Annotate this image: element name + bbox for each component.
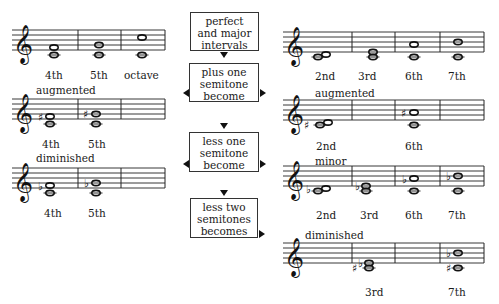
section-title-diminished: diminished (36, 153, 95, 164)
section-title-augmented: augmented (315, 88, 375, 99)
interval-label: 3rd (365, 287, 383, 298)
interval-label: 6th (405, 71, 423, 82)
treble-clef-icon: 𝄞 (284, 25, 304, 67)
interval-label: 4th (42, 139, 60, 150)
flow-box-perfect-major: perfect and major intervals (190, 12, 259, 51)
box-line: semitones (191, 213, 257, 225)
interval-label: 2nd (315, 71, 335, 82)
arrow-right-icon (260, 89, 266, 97)
box-line: semitone (190, 147, 258, 159)
box-line: become (190, 90, 258, 102)
flow-box-plus-one: plus one semitone become (189, 63, 259, 102)
interval-label: 2nd (316, 141, 336, 152)
treble-clef-icon: 𝄞 (13, 23, 33, 65)
box-line: becomes (191, 225, 257, 237)
treble-clef-icon: 𝄞 (13, 161, 33, 203)
arrow-left-icon (183, 160, 189, 168)
interval-label: 7th (448, 287, 466, 298)
whole-note (410, 176, 418, 181)
sharp-icon: ♯ (446, 262, 451, 275)
whole-note (410, 110, 418, 115)
arrow-right-icon (260, 160, 266, 168)
sharp-icon: ♯ (401, 107, 406, 120)
sharp-icon: ♯ (38, 111, 43, 124)
interval-label: 7th (448, 71, 466, 82)
box-line: semitone (190, 78, 258, 90)
interval-label: 4th (44, 208, 62, 219)
flat-icon: ♭ (358, 257, 363, 270)
interval-label: 3rd (358, 71, 376, 82)
flat-icon: ♭ (38, 180, 43, 193)
interval-label: 3rd (360, 210, 378, 221)
interval-label: 6th (405, 210, 423, 221)
interval-label: 2nd (316, 210, 336, 221)
treble-clef-icon: 𝄞 (13, 92, 33, 134)
flat-icon: ♭ (306, 183, 311, 196)
section-title-augmented: augmented (36, 85, 96, 96)
whole-note (410, 42, 418, 47)
arrow-down-icon (220, 190, 228, 196)
flat-icon: ♭ (446, 247, 451, 260)
box-line: become (190, 159, 258, 171)
interval-label: 6th (405, 141, 423, 152)
flow-box-less-one: less one semitone become (189, 132, 259, 172)
treble-clef-icon: 𝄞 (284, 159, 304, 201)
interval-label: 5th (90, 70, 108, 81)
whole-note (138, 35, 146, 40)
flat-icon: ♭ (446, 170, 451, 183)
box-line: less one (190, 135, 258, 147)
arrow-down-icon (220, 123, 228, 129)
section-title-minor: minor (315, 156, 346, 167)
whole-note (322, 52, 330, 57)
box-line: plus one (190, 66, 258, 78)
whole-note (46, 114, 54, 119)
flat-icon: ♭ (402, 173, 407, 186)
box-line: less two (191, 201, 257, 213)
treble-clef-icon: 𝄞 (284, 236, 304, 278)
interval-label: 7th (448, 210, 466, 221)
sharp-icon: ♯ (83, 108, 88, 121)
box-line: intervals (191, 39, 258, 51)
treble-clef-icon: 𝄞 (284, 93, 304, 135)
flat-icon: ♭ (355, 180, 360, 193)
flow-box-less-two: less two semitones becomes (190, 198, 258, 238)
arrow-right-icon (259, 230, 265, 238)
section-title-diminished: diminished (305, 230, 364, 241)
whole-note (46, 183, 54, 188)
interval-label: 4th (45, 70, 63, 81)
whole-note (322, 186, 330, 191)
box-line: and major (191, 27, 258, 39)
whole-note (324, 120, 332, 125)
whole-note (50, 45, 58, 50)
sharp-icon: ♯ (304, 119, 309, 132)
arrow-left-icon (183, 89, 189, 97)
arrow-down-icon (220, 52, 228, 58)
interval-label: 5th (88, 139, 106, 150)
interval-label: 5th (88, 208, 106, 219)
interval-label: octave (124, 70, 159, 81)
box-line: perfect (191, 15, 258, 27)
flat-icon: ♭ (84, 177, 89, 190)
sharp-icon: ♯ (352, 262, 357, 275)
